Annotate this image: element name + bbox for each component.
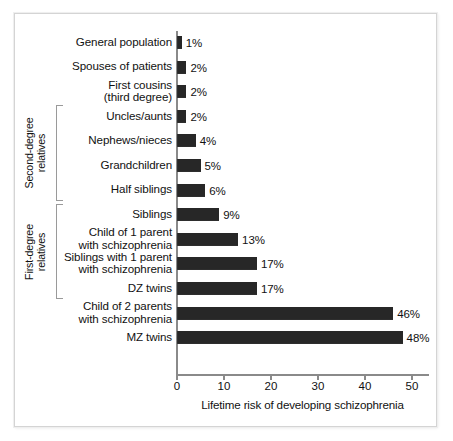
x-axis-line [176,374,429,376]
bar-value-label: 17% [261,258,284,270]
category-label: Half siblings [111,183,172,196]
group-label: Second-degree relatives [23,105,49,201]
category-label: General population [76,36,172,49]
category-label: DZ twins [128,282,172,295]
bar-value-label: 2% [190,86,206,98]
category-label: Child of 2 parents with schizophrenia [78,300,172,325]
x-axis-tick-label: 20 [265,380,278,392]
bar-chart: 1%2%2%2%4%5%6%9%13%17%17%46%48% General … [0,0,453,441]
bar-value-label: 48% [407,332,430,344]
group-bracket [56,105,63,201]
bar [177,36,182,49]
bar-value-label: 6% [209,185,225,197]
figure-page: 1%2%2%2%4%5%6%9%13%17%17%46%48% General … [0,0,453,441]
category-label: Child of 1 parent with schizophrenia [78,226,172,251]
x-axis-tick-label: 50 [406,380,419,392]
x-axis-title: Lifetime risk of developing schizophreni… [176,398,429,411]
category-label: Uncles/aunts [106,110,172,123]
category-label: MZ twins [126,331,172,344]
bar-value-label: 46% [397,308,420,320]
category-label: Spouses of patients [72,60,172,73]
bar-value-label: 2% [190,111,206,123]
bar [177,159,201,172]
category-label: Siblings [132,208,172,221]
bar-value-label: 5% [205,160,221,172]
category-label: Siblings with 1 parent with schizophreni… [64,251,172,276]
x-axis-tick-label: 40 [359,380,372,392]
bar [177,233,238,246]
category-label: Grandchildren [100,159,172,172]
bar-value-label: 1% [186,37,202,49]
x-axis-tick-label: 0 [174,380,180,392]
bar-value-label: 2% [190,62,206,74]
bar [177,307,393,320]
bar [177,61,186,74]
bar-value-label: 13% [242,234,265,246]
bar [177,184,205,197]
bar [177,208,219,221]
group-bracket [56,204,63,300]
bar-value-label: 17% [261,283,284,295]
bar [177,110,186,123]
bar [177,85,186,98]
x-axis-tick-label: 10 [218,380,231,392]
group-label: First-degree relatives [23,204,49,300]
bar-value-label: 4% [200,135,216,147]
y-axis-line [176,31,178,375]
bar [177,134,196,147]
x-axis-tick-label: 30 [312,380,325,392]
category-label: First cousins (third degree) [104,79,172,104]
category-label: Nephews/nieces [88,134,172,147]
bar-value-label: 9% [223,209,239,221]
bar [177,282,257,295]
bar [177,331,403,344]
bar [177,257,257,270]
